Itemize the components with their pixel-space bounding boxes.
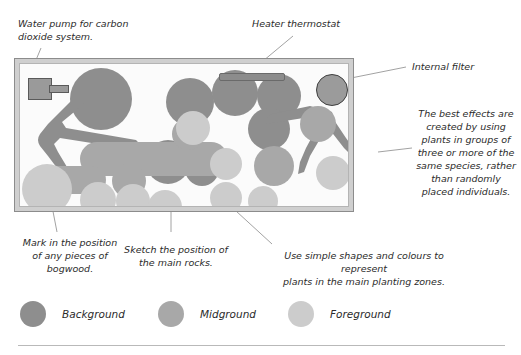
legend-label-midground: Midground xyxy=(200,308,256,320)
aquarium-tank-interior xyxy=(19,63,349,207)
annotation-internal-filter: Internal filter xyxy=(412,60,518,73)
aquarium-tank-frame xyxy=(14,58,354,212)
legend-item-background: Background xyxy=(20,296,125,332)
legend-item-midground: Midground xyxy=(158,296,256,332)
legend-item-foreground: Foreground xyxy=(288,296,391,332)
annotation-main-rocks: Sketch the position of the main rocks. xyxy=(114,243,238,269)
plant-blob-midground xyxy=(300,106,336,142)
plant-blob-foreground xyxy=(22,164,72,207)
leader-line-internal-filter xyxy=(351,67,406,78)
water-pump-nozzle-icon xyxy=(49,85,69,93)
annotation-water-pump: Water pump for carbon dioxide system. xyxy=(18,17,168,43)
legend-swatch-foreground xyxy=(288,301,314,327)
legend-label-background: Background xyxy=(62,308,125,320)
leader-line-best-effects xyxy=(378,148,412,152)
plant-blob-foreground xyxy=(176,111,210,145)
plant-blob-foreground xyxy=(210,148,242,180)
legend-swatch-midground xyxy=(158,301,184,327)
plant-blob-midground xyxy=(254,146,294,186)
plant-blob-foreground xyxy=(248,186,278,207)
annotation-planting-zones: Use simple shapes and colours to represe… xyxy=(273,249,455,288)
legend: Background Midground Foreground xyxy=(0,296,521,336)
annotation-heater-thermostat: Heater thermostat xyxy=(252,17,382,30)
page-root: Water pump for carbon dioxide system. He… xyxy=(0,0,521,355)
legend-label-foreground: Foreground xyxy=(330,308,391,320)
annotation-best-effects: The best effects are created by using pl… xyxy=(414,107,518,198)
footer-divider xyxy=(18,345,505,346)
legend-swatch-background xyxy=(20,301,46,327)
plant-blob-foreground xyxy=(210,182,242,207)
plant-blob-foreground xyxy=(316,156,349,190)
leader-line-planting xyxy=(236,211,272,244)
heater-thermostat-icon xyxy=(219,73,285,81)
annotation-bogwood: Mark in the position of any pieces of bo… xyxy=(10,236,130,275)
internal-filter-icon xyxy=(316,74,348,106)
